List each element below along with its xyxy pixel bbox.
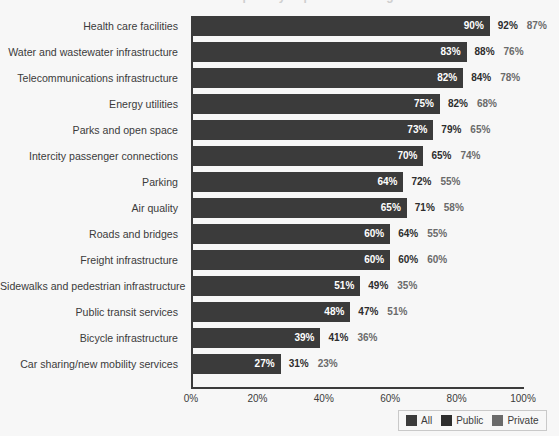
value-private: 87% — [527, 16, 547, 36]
value-private: 78% — [500, 68, 520, 88]
value-private: 76% — [504, 42, 524, 62]
value-public: 88% — [475, 42, 495, 62]
bar-row: Roads and bridges60%64%55% — [0, 221, 559, 247]
category-label: Roads and bridges — [0, 221, 186, 247]
bar-value-all: 90% — [191, 16, 490, 36]
value-public: 47% — [358, 302, 378, 322]
category-label: Air quality — [0, 195, 186, 221]
x-tick-label: 60% — [360, 393, 420, 404]
category-label: Bicycle infrastructure — [0, 325, 186, 351]
category-label: Car sharing/new mobility services — [0, 351, 186, 377]
value-public: 64% — [398, 224, 418, 244]
bar-row: Public transit services48%47%51% — [0, 299, 559, 325]
legend-item-private[interactable]: Private — [492, 415, 538, 426]
chart-title-clipped: Infrastructure priority importance ratin… — [0, 0, 559, 3]
bar-row: Telecommunications infrastructure82%84%7… — [0, 65, 559, 91]
value-private: 60% — [427, 250, 447, 270]
value-public: 71% — [415, 198, 435, 218]
category-label: Water and wastewater infrastructure — [0, 39, 186, 65]
value-private: 58% — [444, 198, 464, 218]
category-label: Energy utilities — [0, 91, 186, 117]
value-public: 31% — [289, 354, 309, 374]
bar-row: Freight infrastructure60%60%60% — [0, 247, 559, 273]
bar-row: Bicycle infrastructure39%41%36% — [0, 325, 559, 351]
x-tick-label: 100% — [493, 393, 553, 404]
bar-value-all: 64% — [191, 172, 403, 192]
bar-row: Health care facilities90%92%87% — [0, 13, 559, 39]
bar-value-all: 65% — [191, 198, 407, 218]
plot-area: Health care facilities90%92%87%Water and… — [0, 13, 559, 377]
legend-item-all[interactable]: All — [406, 415, 432, 426]
bar-chart: Infrastructure priority importance ratin… — [0, 0, 559, 436]
bar-value-all: 73% — [191, 120, 433, 140]
bar-value-all: 27% — [191, 354, 281, 374]
value-public: 79% — [441, 120, 461, 140]
bar-row: Air quality65%71%58% — [0, 195, 559, 221]
bar-row: Car sharing/new mobility services27%31%2… — [0, 351, 559, 377]
bar-value-all: 75% — [191, 94, 440, 114]
bar-value-all: 70% — [191, 146, 423, 166]
y-axis-line — [191, 26, 193, 388]
x-tick-label: 40% — [294, 393, 354, 404]
x-tick-label: 0% — [161, 393, 221, 404]
value-public: 41% — [328, 328, 348, 348]
bar-row: Parking64%72%55% — [0, 169, 559, 195]
bar-row: Energy utilities75%82%68% — [0, 91, 559, 117]
value-public: 82% — [448, 94, 468, 114]
category-label: Freight infrastructure — [0, 247, 186, 273]
legend-swatch-all — [406, 415, 417, 426]
value-private: 36% — [357, 328, 377, 348]
bar-row: Intercity passenger connections70%65%74% — [0, 143, 559, 169]
legend-swatch-public — [441, 415, 452, 426]
legend-label-all: All — [421, 415, 432, 426]
bar-row: Sidewalks and pedestrian infrastructure5… — [0, 273, 559, 299]
bar-value-all: 60% — [191, 250, 390, 270]
x-tick-label: 20% — [227, 393, 287, 404]
bar-value-all: 60% — [191, 224, 390, 244]
value-public: 84% — [471, 68, 491, 88]
category-label: Health care facilities — [0, 13, 186, 39]
value-private: 55% — [427, 224, 447, 244]
value-public: 60% — [398, 250, 418, 270]
chart-legend: All Public Private — [398, 410, 547, 431]
value-private: 51% — [387, 302, 407, 322]
bar-row: Parks and open space73%79%65% — [0, 117, 559, 143]
legend-swatch-private — [492, 415, 503, 426]
category-label: Telecommunications infrastructure — [0, 65, 186, 91]
bar-value-all: 82% — [191, 68, 463, 88]
value-private: 23% — [318, 354, 338, 374]
value-private: 68% — [477, 94, 497, 114]
value-private: 65% — [470, 120, 490, 140]
category-label: Parking — [0, 169, 186, 195]
value-public: 49% — [368, 276, 388, 296]
x-axis-line — [191, 387, 524, 389]
category-label: Public transit services — [0, 299, 186, 325]
value-private: 55% — [440, 172, 460, 192]
bar-row: Water and wastewater infrastructure83%88… — [0, 39, 559, 65]
legend-item-public[interactable]: Public — [441, 415, 483, 426]
value-private: 35% — [397, 276, 417, 296]
value-private: 74% — [460, 146, 480, 166]
bar-value-all: 39% — [191, 328, 320, 348]
bar-value-all: 83% — [191, 42, 467, 62]
bar-value-all: 51% — [191, 276, 360, 296]
legend-label-public: Public — [456, 415, 483, 426]
x-tick-label: 80% — [427, 393, 487, 404]
value-public: 65% — [431, 146, 451, 166]
value-public: 72% — [411, 172, 431, 192]
category-label: Parks and open space — [0, 117, 186, 143]
value-public: 92% — [498, 16, 518, 36]
legend-label-private: Private — [507, 415, 538, 426]
bar-value-all: 48% — [191, 302, 350, 322]
category-label: Intercity passenger connections — [0, 143, 186, 169]
category-label: Sidewalks and pedestrian infrastructure — [0, 273, 186, 299]
